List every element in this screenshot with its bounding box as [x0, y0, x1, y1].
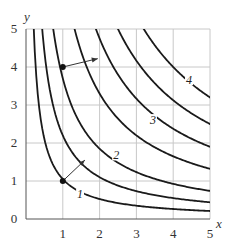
- data-point: [60, 178, 66, 184]
- curve-label: 2: [113, 148, 119, 162]
- level-curve: [113, 18, 212, 125]
- level-curve: [92, 18, 212, 148]
- x-tick-label: 5: [207, 226, 214, 241]
- x-tick-label: 3: [133, 226, 140, 241]
- curve-label: 4: [186, 73, 192, 87]
- y-axis-label: y: [22, 9, 30, 24]
- level-curves-chart: 1234 12345012345xy: [0, 0, 234, 249]
- level-curve: [52, 18, 212, 192]
- x-tick-label: 2: [96, 226, 103, 241]
- curve-label: 3: [149, 113, 156, 127]
- y-tick-label: 4: [11, 59, 18, 74]
- x-tick-label: 1: [60, 226, 67, 241]
- level-curve: [137, 18, 212, 99]
- y-tick-label: 0: [11, 211, 18, 226]
- x-axis-label: x: [215, 216, 222, 231]
- data-point: [60, 64, 66, 70]
- y-tick-label: 5: [11, 21, 18, 36]
- curve-label: 1: [77, 187, 83, 201]
- axes: [26, 29, 210, 219]
- y-tick-label: 2: [11, 135, 18, 150]
- curve-labels: 1234: [76, 73, 193, 201]
- arrowhead-icon: [91, 58, 97, 63]
- x-tick-label: 4: [170, 226, 177, 241]
- level-curve: [72, 18, 212, 170]
- y-tick-label: 3: [11, 97, 18, 112]
- y-tick-label: 1: [11, 173, 18, 188]
- chart-canvas: 1234 12345012345xy: [0, 0, 234, 249]
- gradient-arrows: [63, 58, 98, 181]
- grid-lines: [26, 29, 210, 219]
